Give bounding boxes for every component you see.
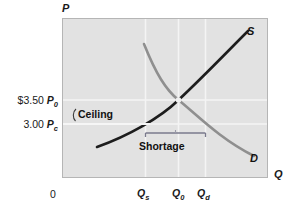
y-tick-subscript: c (54, 124, 58, 133)
plot-area (62, 18, 268, 178)
y-tick-symbol: P (47, 118, 54, 130)
x-tick-subscript: 0 (180, 193, 184, 202)
y-tick-symbol: P (47, 94, 54, 106)
shortage-annotation-label: Shortage (139, 140, 185, 152)
x-tick-symbol: Q (197, 187, 205, 199)
y-tick-equilibrium-price: $3.50 P0 (0, 94, 58, 109)
y-tick-price-value: 3.00 (23, 118, 43, 130)
origin-label: 0 (50, 188, 56, 200)
x-tick-quantity-supplied: Qs (137, 187, 149, 202)
x-axis-label: Q (274, 168, 283, 180)
y-axis-label: P (62, 2, 69, 14)
x-tick-equilibrium-quantity: Q0 (172, 187, 184, 202)
supply-curve-label: S (247, 25, 254, 37)
y-tick-subscript: 0 (54, 100, 58, 109)
y-tick-ceiling-price: 3.00 Pc (0, 118, 58, 133)
ceiling-annotation-label: Ceiling (78, 108, 113, 120)
demand-curve-label: D (250, 152, 258, 164)
x-tick-subscript: s (145, 193, 149, 202)
price-ceiling-chart: P Q $3.50 P0 3.00 Pc 0 Qs Q0 Qd S D Ceil… (0, 0, 297, 212)
x-tick-symbol: Q (172, 187, 180, 199)
x-tick-quantity-demanded: Qd (197, 187, 210, 202)
y-tick-price-value: $3.50 (18, 94, 44, 106)
x-tick-symbol: Q (137, 187, 145, 199)
x-tick-subscript: d (205, 193, 210, 202)
